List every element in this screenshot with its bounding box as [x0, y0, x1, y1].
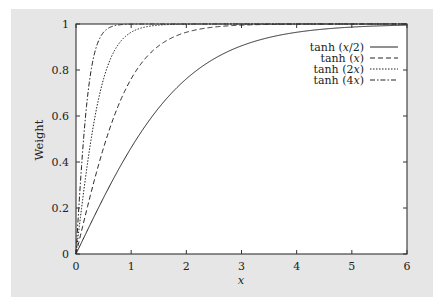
x-tick-label: 5 — [348, 260, 355, 273]
x-tick-label: 1 — [128, 260, 135, 273]
x-tick-label: 0 — [73, 260, 80, 273]
x-tick-label: 2 — [183, 260, 190, 273]
y-axis-label: Weight — [32, 119, 46, 160]
legend-label: tanh (4x) — [314, 74, 364, 87]
x-tick-label: 6 — [404, 260, 411, 273]
y-tick-label: 0.2 — [52, 202, 70, 215]
x-axis-label: x — [238, 273, 245, 287]
line-chart: 0123456 00.20.40.60.81 x Weight tanh (x/… — [0, 0, 445, 307]
x-tick-label: 3 — [238, 260, 245, 273]
x-tick-label: 4 — [293, 260, 300, 273]
y-tick-label: 1 — [62, 18, 69, 31]
y-tick-label: 0 — [62, 248, 69, 261]
y-tick-label: 0.6 — [52, 110, 70, 123]
y-tick-label: 0.4 — [52, 156, 70, 169]
y-tick-label: 0.8 — [52, 64, 70, 77]
